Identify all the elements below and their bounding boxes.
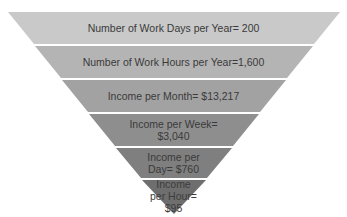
pyramid-level-3: Income per Month= $13,217 <box>0 80 347 112</box>
pyramid-level-1: Number of Work Days per Year= 200 <box>0 12 347 44</box>
level-4-label: Income per Week= $3,040 <box>119 118 229 142</box>
level-1-label: Number of Work Days per Year= 200 <box>88 22 260 34</box>
pyramid-level-2: Number of Work Hours per Year=1,600 <box>0 46 347 78</box>
pyramid-level-4: Income per Week= $3,040 <box>0 114 347 146</box>
pyramid-level-6: Income per Hour= $95 <box>0 181 347 211</box>
inverted-pyramid-diagram: Number of Work Days per Year= 200 Number… <box>0 0 347 217</box>
level-2-label: Number of Work Hours per Year=1,600 <box>83 56 265 68</box>
level-3-label: Income per Month= $13,217 <box>108 90 240 102</box>
pyramid-level-5: Income per Day= $760 <box>0 148 347 178</box>
level-6-label: Income per Hour= $95 <box>149 178 199 214</box>
level-5-label: Income per Day= $760 <box>139 151 209 175</box>
